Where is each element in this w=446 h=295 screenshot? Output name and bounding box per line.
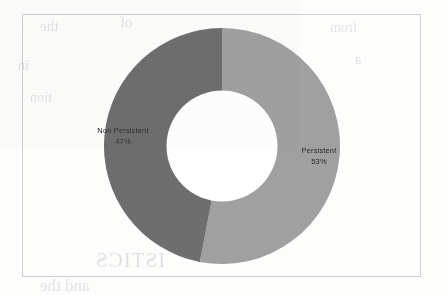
slice-label-non-persistent-value: 47% — [85, 137, 161, 148]
donut-chart — [0, 0, 446, 295]
slice-label-persistent-value: 53% — [286, 157, 352, 168]
donut-hole — [167, 91, 278, 202]
slice-label-non-persistent: Non Persistent 47% — [85, 126, 161, 148]
slice-label-persistent: Persistent 53% — [286, 146, 352, 168]
slice-label-non-persistent-name: Non Persistent — [97, 126, 148, 135]
slice-label-persistent-name: Persistent — [302, 146, 337, 155]
donut-chart-svg — [0, 0, 446, 295]
